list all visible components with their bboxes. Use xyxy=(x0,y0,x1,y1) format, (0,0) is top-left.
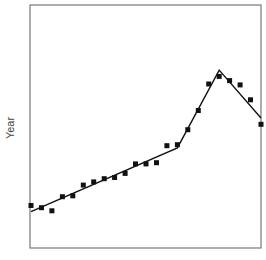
data-point xyxy=(206,82,211,87)
data-point xyxy=(49,208,54,213)
data-point xyxy=(81,183,86,188)
data-point xyxy=(164,143,169,148)
data-point xyxy=(112,175,117,180)
plot-frame xyxy=(30,5,261,248)
fit-line xyxy=(31,70,261,212)
data-point xyxy=(123,171,128,176)
data-point xyxy=(196,108,201,113)
data-point xyxy=(154,160,159,165)
data-point xyxy=(175,142,180,147)
data-point xyxy=(227,78,232,83)
fit-line-path xyxy=(31,70,261,212)
chart-plot xyxy=(0,0,266,260)
data-point xyxy=(39,205,44,210)
data-point xyxy=(248,97,253,102)
data-point xyxy=(217,74,222,79)
data-point xyxy=(238,82,243,87)
data-point xyxy=(133,161,138,166)
data-points xyxy=(29,74,264,213)
data-point xyxy=(91,179,96,184)
data-point xyxy=(70,193,75,198)
data-point xyxy=(60,194,65,199)
data-point xyxy=(185,127,190,132)
data-point xyxy=(29,203,34,208)
data-point xyxy=(259,122,264,127)
data-point xyxy=(102,176,107,181)
data-point xyxy=(144,161,149,166)
